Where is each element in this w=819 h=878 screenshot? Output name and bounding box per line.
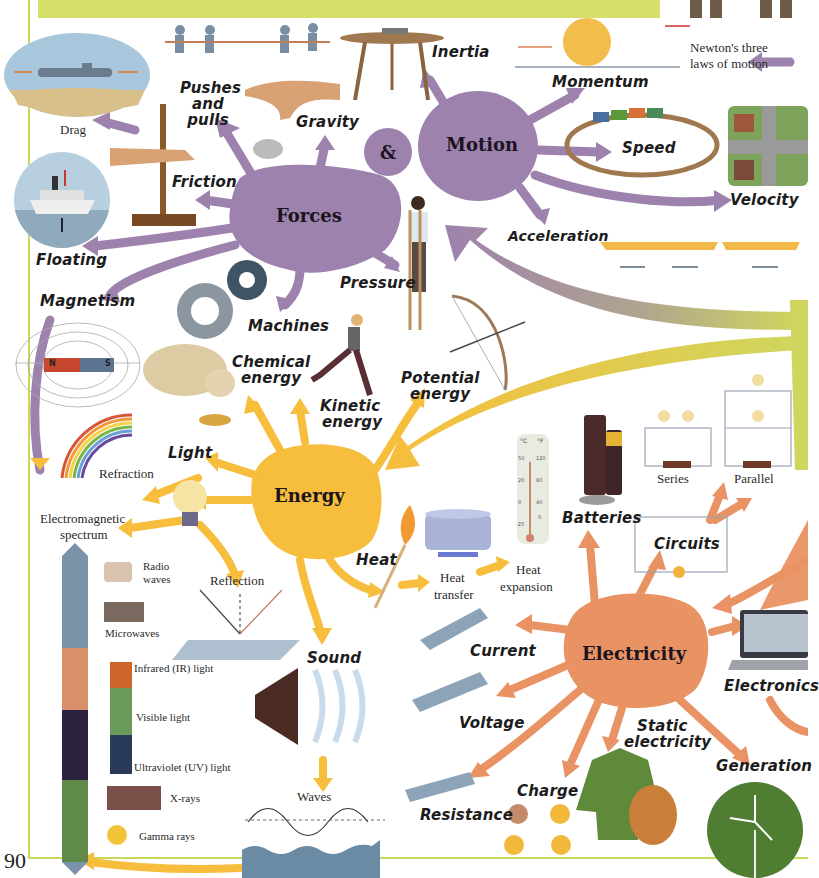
batteries-label: Batteries [562, 510, 642, 527]
acceleration-label: Acceleration [508, 228, 609, 245]
light-bulb-illustration [173, 480, 207, 526]
waves-label: Waves [297, 789, 331, 804]
electronics-label: Electronics [724, 678, 819, 695]
magnetism-label: Magnetism [40, 293, 135, 310]
infrared-label: Infrared (IR) light [134, 662, 213, 675]
roller-skaters-illustration [665, 0, 792, 26]
drag-label: Drag [60, 122, 86, 137]
ampersand-hub: & [380, 142, 396, 163]
thermometer-c-tick: 20 [518, 477, 524, 483]
inertia-label: Inertia [432, 44, 490, 61]
visible-light-label: Visible light [136, 711, 190, 724]
magnet-north-label: N [49, 359, 56, 368]
chemical-energy-line2: energy [241, 370, 301, 387]
radio-waves-line2: waves [143, 573, 171, 586]
sound-label: Sound [307, 650, 361, 667]
ultraviolet-label: Ultraviolet (UV) light [134, 761, 231, 774]
heat-expansion-line2: expansion [500, 579, 553, 594]
thermometer-c-unit: °C [520, 437, 527, 444]
resistance-label: Resistance [420, 807, 513, 824]
radiation-icon [107, 825, 127, 845]
street-map-illustration [728, 106, 808, 186]
charges-illustration [504, 804, 571, 855]
thermometer-c-tick: -25 [516, 521, 524, 527]
gravity-label: Gravity [296, 114, 359, 131]
energy-hub: Energy [274, 485, 345, 506]
microwave-icon [104, 602, 144, 622]
circuits-label: Circuits [654, 536, 720, 553]
magnet-illustration [15, 323, 140, 407]
refraction-label: Refraction [99, 466, 154, 481]
stilts-person-illustration [410, 196, 428, 330]
electricity-hub: Electricity [582, 643, 686, 664]
forces-hub: Forces [276, 205, 342, 226]
planes-illustration [600, 242, 800, 267]
ball-illustration [563, 18, 611, 66]
heat-transfer-line2: transfer [434, 587, 474, 602]
em-spectrum-line2: spectrum [60, 527, 108, 542]
pushes-pulls-label: Pushes and pulls [180, 80, 236, 128]
magnet-south-label: S [105, 359, 111, 368]
charge-label: Charge [517, 783, 578, 800]
reflection-label: Reflection [210, 573, 264, 588]
momentum-label: Momentum [552, 74, 649, 91]
heat-expansion-line1: Heat [516, 562, 541, 577]
gamma-rays-label: Gamma rays [139, 830, 195, 843]
motion-hub: Motion [446, 134, 518, 155]
parallel-label: Parallel [734, 471, 774, 486]
thermometer-f-tick: 80 [536, 477, 542, 483]
xray-icon [107, 786, 161, 810]
current-label: Current [470, 643, 536, 660]
water-pipes-illustration [405, 608, 488, 802]
thermometer-c-tick: 0 [518, 499, 521, 505]
thermometer-f-tick: 120 [536, 455, 546, 461]
static-electricity-line2: electricity [624, 734, 711, 751]
tug-of-war-illustration [165, 23, 330, 53]
laptop-illustration [728, 610, 808, 670]
machines-label: Machines [248, 318, 329, 335]
dog-illustration [143, 344, 235, 426]
kinetic-energy-line2: energy [322, 414, 382, 431]
radio-waves-line1: Radio [143, 560, 169, 573]
thermometer-c-tick: 50 [518, 455, 524, 461]
light-label: Light [168, 445, 212, 462]
heat-transfer-line1: Heat [440, 570, 465, 585]
table-illustration [340, 28, 444, 100]
thermometer-illustration [517, 434, 549, 544]
velocity-label: Velocity [730, 192, 799, 209]
potential-energy-line2: energy [410, 386, 470, 403]
newtons-laws-line2: laws of motion [690, 56, 768, 71]
pot-illustration [425, 509, 491, 557]
sweater-balloon-illustration [576, 748, 677, 845]
thermometer-f-tick: 40 [536, 499, 542, 505]
batteries-illustration [579, 415, 622, 505]
page-number: 90 [4, 848, 26, 874]
xrays-label: X-rays [170, 792, 200, 805]
speed-label: Speed [622, 140, 676, 157]
microwaves-label: Microwaves [105, 627, 159, 640]
submarine-illustration [4, 33, 150, 118]
waves-illustration [242, 809, 385, 878]
thermometer-f-unit: °F [537, 437, 543, 444]
rock-illustration [253, 139, 283, 159]
heat-label: Heat [356, 552, 397, 569]
em-spectrum-line1: Electromagnetic [40, 511, 125, 526]
radio-icon [104, 562, 132, 582]
thermometer-f-tick: 0 [538, 514, 541, 520]
em-spectrum-bar [62, 543, 132, 875]
ship-illustration [14, 152, 110, 248]
friction-label: Friction [172, 174, 237, 191]
reflection-illustration [172, 590, 300, 660]
floating-label: Floating [36, 252, 107, 269]
pressure-label: Pressure [340, 275, 416, 292]
newtons-laws-line1: Newton's three [690, 40, 768, 55]
wind-turbine-illustration [707, 782, 803, 878]
speaker-illustration [255, 668, 363, 745]
voltage-label: Voltage [459, 715, 525, 732]
generation-label: Generation [716, 758, 812, 775]
series-circuit-illustration [645, 391, 791, 466]
circuit-bulb-icon [673, 566, 685, 578]
series-label: Series [657, 471, 689, 486]
